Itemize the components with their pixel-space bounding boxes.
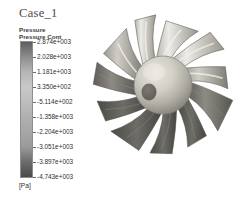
colorbar-unit-label: [Pa] [19, 182, 31, 189]
tick-mark [33, 177, 36, 178]
tick-label: -3.051e+003 [37, 143, 73, 150]
tick-label: 2.874e+003 [37, 38, 71, 45]
tick-mark [33, 87, 36, 88]
tick-mark [33, 132, 36, 133]
tick-mark [33, 102, 36, 103]
tick-mark [33, 42, 36, 43]
legend-variable-label: Pressure [19, 26, 61, 33]
tick-mark [33, 57, 36, 58]
tick-label: -1.358e+003 [37, 113, 73, 120]
hub-highlight [143, 63, 165, 81]
colorbar [20, 41, 33, 178]
screenshot-root: Case_1 Pressure Pressure Cont 2.874e+003… [0, 0, 242, 198]
hub-sphere [134, 56, 192, 114]
tick-mark [33, 162, 36, 163]
tick-mark [33, 72, 36, 73]
tick-label: 3.350e+002 [37, 83, 71, 90]
page-title: Case_1 [19, 6, 58, 21]
tick-label: -2.204e+003 [37, 128, 73, 135]
tick-label: 2.028e+003 [37, 53, 71, 60]
tick-label: -5.114e+002 [37, 98, 73, 105]
tick-mark [33, 117, 36, 118]
tick-label: -3.897e+003 [37, 158, 73, 165]
impeller-svg [76, 0, 242, 198]
tick-mark [33, 147, 36, 148]
impeller-render-viewport [76, 0, 242, 198]
tick-label: -4.743e+003 [37, 173, 73, 180]
tick-label: 1.181e+003 [37, 68, 71, 75]
impeller-hub [134, 56, 192, 114]
colorbar-gradient [20, 41, 33, 178]
hub-dimple [142, 84, 157, 101]
